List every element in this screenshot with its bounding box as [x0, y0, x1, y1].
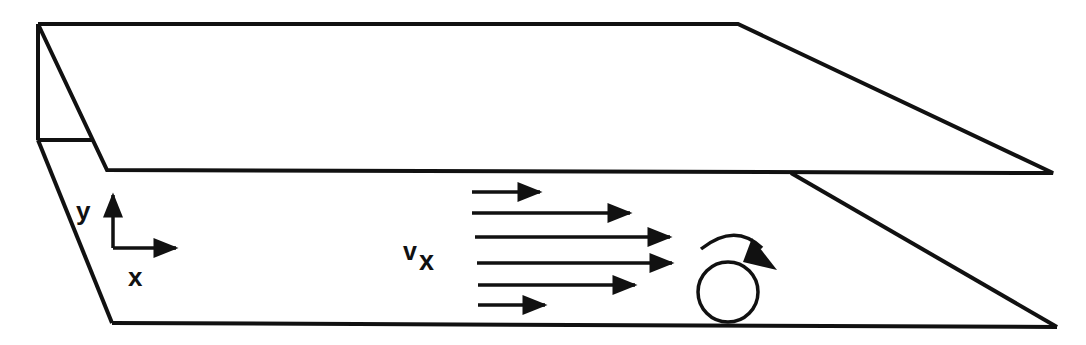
- shear-flow-diagram: y x vx: [0, 0, 1086, 345]
- diagram-canvas: [0, 0, 1086, 345]
- x-axis-label: x: [128, 264, 142, 290]
- velocity-label: vx: [403, 238, 432, 265]
- velocity-subscript: x: [419, 246, 434, 276]
- bottom-front-edge: [112, 323, 1057, 327]
- bottom-right-edge: [791, 173, 1057, 327]
- y-axis-label: y: [76, 198, 90, 224]
- particle-circle: [698, 262, 758, 322]
- velocity-symbol: v: [403, 237, 417, 265]
- bottom-left-edge: [38, 140, 112, 323]
- velocity-profile-arrows: [472, 192, 672, 305]
- axes-icon: [113, 195, 176, 248]
- top-plate: [38, 24, 1053, 173]
